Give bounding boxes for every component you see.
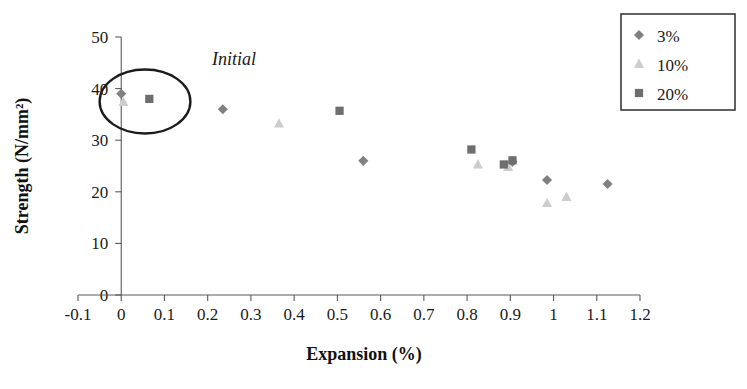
axis-lines bbox=[78, 37, 640, 295]
x-tick-label: 1.2 bbox=[629, 305, 650, 324]
legend-label: 10% bbox=[657, 56, 688, 75]
chart-canvas: -0.100.10.20.30.40.50.60.70.80.911.11.2 … bbox=[0, 0, 747, 389]
x-axis-ticks: -0.100.10.20.30.40.50.60.70.80.911.11.2 bbox=[65, 295, 651, 324]
data-point-marker bbox=[473, 159, 483, 168]
y-axis-title: Strength (N/mm²) bbox=[12, 98, 33, 235]
data-point-marker bbox=[358, 156, 368, 166]
x-tick-label: 0.9 bbox=[500, 305, 521, 324]
y-axis-ticks: 01020304050 bbox=[91, 28, 121, 305]
x-tick-label: 0.6 bbox=[370, 305, 391, 324]
data-point-marker bbox=[274, 118, 284, 127]
legend-marker-square bbox=[635, 89, 643, 97]
x-tick-label: -0.1 bbox=[65, 305, 92, 324]
y-tick-label: 20 bbox=[91, 183, 108, 202]
legend-label: 3% bbox=[657, 27, 680, 46]
y-tick-label: 30 bbox=[91, 131, 108, 150]
annotation-ellipse bbox=[100, 70, 191, 134]
data-point-marker bbox=[218, 104, 228, 114]
chart-legend: 3%10%20% bbox=[621, 14, 735, 110]
data-point-marker bbox=[508, 156, 516, 164]
data-point-marker bbox=[335, 107, 343, 115]
data-point-marker bbox=[542, 198, 552, 207]
x-tick-label: 0.3 bbox=[240, 305, 261, 324]
x-tick-label: 0.8 bbox=[456, 305, 477, 324]
annotation-label: Initial bbox=[211, 49, 256, 69]
data-point-marker bbox=[467, 145, 475, 153]
data-point-marker bbox=[542, 175, 552, 185]
x-tick-label: 0.2 bbox=[197, 305, 218, 324]
scatter-chart: -0.100.10.20.30.40.50.60.70.80.911.11.2 … bbox=[0, 0, 747, 389]
x-tick-label: 0.5 bbox=[327, 305, 348, 324]
data-point-marker bbox=[118, 97, 128, 106]
x-axis-title: Expansion (%) bbox=[306, 344, 422, 365]
y-tick-label: 10 bbox=[91, 234, 108, 253]
x-tick-label: 0.1 bbox=[154, 305, 175, 324]
x-tick-label: 1 bbox=[549, 305, 558, 324]
x-tick-label: 0.7 bbox=[413, 305, 435, 324]
data-point-marker bbox=[500, 160, 508, 168]
data-point-marker bbox=[116, 89, 126, 99]
data-point-marker bbox=[145, 95, 153, 103]
x-tick-label: 1.1 bbox=[586, 305, 607, 324]
x-tick-label: 0 bbox=[117, 305, 126, 324]
y-tick-label: 50 bbox=[91, 28, 108, 47]
legend-label: 20% bbox=[657, 85, 688, 104]
data-point-marker bbox=[561, 192, 571, 201]
data-point-marker bbox=[603, 179, 613, 189]
x-tick-label: 0.4 bbox=[284, 305, 306, 324]
